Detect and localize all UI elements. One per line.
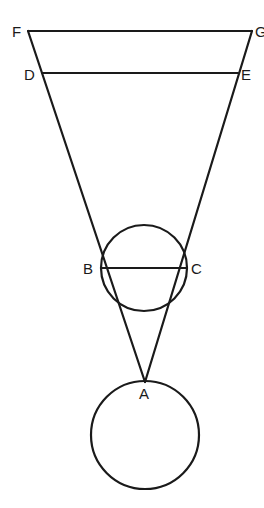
geometry-diagram: F G D E B C A [0, 0, 264, 508]
label-G: G [255, 23, 264, 40]
segment-GA [145, 31, 252, 382]
label-A: A [139, 385, 149, 402]
segment-FA [28, 31, 145, 382]
label-F: F [12, 23, 21, 40]
label-E: E [241, 66, 251, 83]
label-D: D [24, 66, 35, 83]
label-C: C [191, 260, 202, 277]
label-B: B [83, 260, 93, 277]
